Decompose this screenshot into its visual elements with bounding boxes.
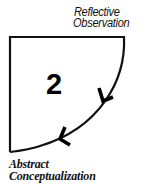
stage-number: 2 [46,69,62,99]
bottom-label-line2: Conceptualization [9,170,119,182]
quadrant-outline [10,37,124,152]
kolb-cycle-quadrant: Reflective Observation 2 Abstract Concep… [0,0,148,184]
top-label-line2: Observation [73,18,139,29]
abstract-conceptualization-label: Abstract Conceptualization [9,158,119,182]
reflective-observation-label: Reflective Observation [73,7,139,29]
